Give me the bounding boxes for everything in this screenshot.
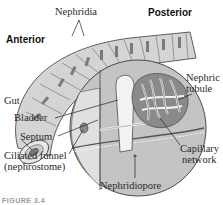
nephridia-diagram: Nephridia Posterior Anterior Nephric tub…	[0, 0, 223, 205]
label-capillary-1: Capillary	[180, 143, 219, 154]
label-nephric-tubule-1: Nephric	[186, 72, 220, 83]
label-septum: Septum	[20, 131, 52, 142]
figure-caption: FIGURE 3.4	[2, 197, 45, 204]
label-nephridia: Nephridia	[55, 6, 97, 17]
label-anterior: Anterior	[6, 34, 45, 45]
label-bladder: Bladder	[14, 112, 47, 123]
label-gut: Gut	[4, 95, 20, 106]
label-posterior: Posterior	[148, 7, 192, 18]
label-ciliated-funnel-2: (nephrostome)	[4, 161, 65, 172]
tubule-coils	[132, 73, 188, 127]
diagram-graphic	[0, 0, 223, 205]
label-nephridiopore: Nephridiopore	[100, 180, 161, 191]
label-nephric-tubule-2: tubule	[186, 83, 212, 94]
label-capillary-2: network	[182, 154, 216, 165]
label-ciliated-funnel-1: Ciliated funnel	[4, 150, 67, 161]
